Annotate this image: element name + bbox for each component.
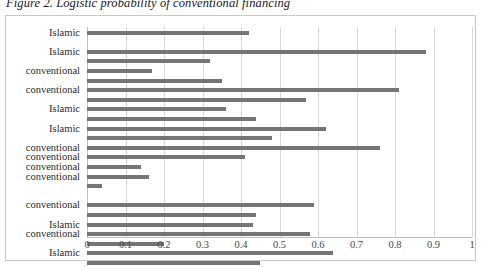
y-axis-label: conventional [26,171,80,182]
x-axis-tick-label: 1 [469,239,474,250]
x-axis-tick-label: 0.8 [388,239,401,250]
bar [87,136,272,140]
bar [87,117,256,121]
x-axis-tick-label: 0.6 [311,239,324,250]
bar [87,59,210,63]
x-axis-tick-label: 0.2 [157,239,170,250]
bar [87,107,226,111]
bar [87,69,152,73]
bar [87,165,141,169]
bar [87,203,314,207]
chart-frame: IslamicIslamicconventionalconventionalIs… [5,15,476,261]
gridline [472,27,473,237]
x-axis-line [87,237,472,238]
bar [87,232,310,236]
y-axis-label-group: IslamicIslamicconventionalconventionalIs… [6,27,84,237]
bar [87,184,102,188]
bar [87,155,245,159]
figure-title: Figure 2. Logistic probability of conven… [6,0,290,11]
bar [87,223,253,227]
y-axis-label: conventional [26,199,80,210]
y-axis-label: Islamic [49,123,80,134]
x-axis-tick-group: 00.10.20.30.40.50.60.70.80.91 [87,239,472,255]
bar [87,213,256,217]
bar [87,261,260,265]
bar [87,79,222,83]
y-axis-label: conventional [26,65,80,76]
bar [87,31,249,35]
y-axis-label: Islamic [49,247,80,258]
gridline [357,27,358,237]
y-axis-label: Islamic [49,103,80,114]
x-axis-tick-label: 0.7 [350,239,363,250]
y-axis-label: conventional [26,84,80,95]
x-axis-tick-label: 0.4 [234,239,247,250]
plot-area [87,27,472,237]
bar [87,175,149,179]
bar [87,50,426,54]
x-axis-tick-label: 0.1 [119,239,132,250]
x-axis-tick-label: 0.9 [427,239,440,250]
bar [87,88,399,92]
gridline [318,27,319,237]
gridline [434,27,435,237]
gridline [395,27,396,237]
bar [87,98,306,102]
x-axis-tick-label: 0 [84,239,89,250]
y-axis-label: conventional [26,228,80,239]
bar [87,146,380,150]
x-axis-tick-label: 0.3 [196,239,209,250]
y-axis-label: Islamic [49,27,80,38]
bar [87,127,326,131]
y-axis-label: Islamic [49,46,80,57]
x-axis-tick-label: 0.5 [273,239,286,250]
